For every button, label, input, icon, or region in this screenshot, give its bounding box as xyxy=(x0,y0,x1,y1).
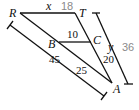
segment-label-y: y xyxy=(107,40,114,54)
dimension-tick-RA-end xyxy=(101,92,107,100)
point-label-C: C xyxy=(93,33,102,47)
dimension-tick-RA-start xyxy=(7,21,13,29)
segment-label-BC: 10 xyxy=(67,28,79,40)
segment-label-RA: 45 xyxy=(49,53,61,65)
point-label-A: A xyxy=(112,82,121,96)
point-label-B: B xyxy=(48,37,56,51)
similar-triangles-diagram: R T B C A x 10 25 20 45 y 18 36 xyxy=(0,0,139,110)
point-label-T: T xyxy=(79,6,87,20)
segment-label-x: x xyxy=(45,0,52,13)
answer-y-value: 36 xyxy=(122,41,134,53)
segment-label-CA: 20 xyxy=(103,53,115,65)
segment-label-BA: 25 xyxy=(76,64,88,76)
segment-RA xyxy=(20,13,112,83)
answer-x-value: 18 xyxy=(61,0,73,12)
point-label-R: R xyxy=(8,6,17,20)
